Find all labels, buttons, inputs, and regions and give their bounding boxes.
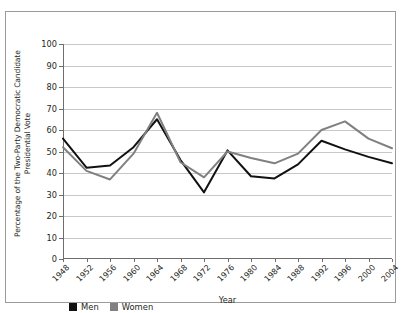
y-tick-label: 10 (47, 233, 57, 243)
x-tick-mark (322, 259, 323, 262)
legend-item-men[interactable]: Men (69, 302, 99, 312)
x-tick-mark (298, 259, 299, 262)
y-tick-label: 20 (47, 211, 57, 221)
chart-figure-frame: Percentage of the Two-Party Democratic C… (5, 11, 396, 303)
y-tick-label: 60 (47, 125, 57, 135)
x-tick-mark (345, 259, 346, 262)
y-tick-label: 40 (47, 168, 57, 178)
x-tick-mark (392, 259, 393, 262)
y-tick-label: 30 (47, 190, 57, 200)
series-group (63, 44, 392, 259)
y-axis-title: Percentage of the Two-Party Democratic C… (12, 30, 38, 258)
x-tick-mark (87, 259, 88, 262)
x-tick-mark (181, 259, 182, 262)
y-tick-label: 70 (47, 104, 57, 114)
x-tick-mark (63, 259, 64, 262)
plot-area: 0102030405060708090100 19481952195619601… (63, 44, 392, 259)
y-tick-label: 0 (52, 254, 57, 264)
x-tick-mark (275, 259, 276, 262)
x-tick-mark (369, 259, 370, 262)
y-axis-title-line-2: Presidential Vote (24, 30, 32, 258)
plot-inner: 0102030405060708090100 19481952195619601… (63, 44, 392, 259)
x-tick-mark (110, 259, 111, 262)
y-tick-label: 90 (47, 61, 57, 71)
legend-swatch-icon (110, 303, 118, 311)
series-line-men (63, 119, 392, 192)
x-tick-mark (134, 259, 135, 262)
x-tick-mark (157, 259, 158, 262)
y-tick-label: 80 (47, 82, 57, 92)
y-tick-label: 100 (41, 39, 57, 49)
legend-swatch-icon (69, 303, 77, 311)
chart-legend: MenWomen (69, 302, 153, 312)
y-axis-title-line-1: Percentage of the Two-Party Democratic C… (14, 30, 22, 258)
legend-item-women[interactable]: Women (110, 302, 154, 312)
legend-label: Men (81, 302, 99, 312)
series-line-women (63, 113, 392, 180)
x-tick-mark (228, 259, 229, 262)
y-tick-label: 50 (47, 147, 57, 157)
legend-label: Women (122, 302, 154, 312)
x-tick-mark (204, 259, 205, 262)
x-tick-mark (251, 259, 252, 262)
